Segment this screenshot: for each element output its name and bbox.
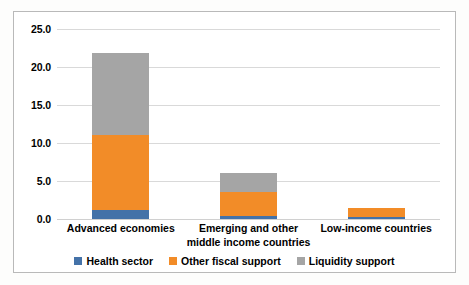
x-axis-label-3: Low-income countries [312, 222, 440, 236]
chart-frame: 0.05.010.015.020.025.0 Advanced economie… [13, 11, 456, 273]
bar-group[interactable] [92, 29, 149, 219]
legend-swatch-icon [297, 257, 305, 265]
legend-label: Other fiscal support [181, 255, 281, 267]
legend-item[interactable]: Health sector [74, 255, 153, 267]
y-axis-tick-label: 10.0 [31, 137, 51, 149]
bar-stack[interactable] [348, 208, 405, 219]
chart-legend: Health sectorOther fiscal supportLiquidi… [14, 255, 455, 267]
legend-item[interactable]: Other fiscal support [169, 255, 281, 267]
x-axis-label-1: Advanced economies [58, 222, 183, 236]
legend-item[interactable]: Liquidity support [297, 255, 395, 267]
bar-segment[interactable] [348, 208, 405, 218]
legend-label: Liquidity support [309, 255, 395, 267]
bar-segment[interactable] [92, 53, 149, 135]
bar-segment[interactable] [92, 210, 149, 219]
y-axis-tick-label: 25.0 [31, 23, 51, 35]
bar-group[interactable] [348, 29, 405, 219]
y-axis-tick-label: 20.0 [31, 61, 51, 73]
legend-label: Health sector [86, 255, 153, 267]
legend-swatch-icon [74, 257, 82, 265]
legend-swatch-icon [169, 257, 177, 265]
y-axis-tick-label: 15.0 [31, 99, 51, 111]
bar-segment[interactable] [92, 135, 149, 209]
bar-group[interactable] [220, 29, 277, 219]
y-axis-tick-label: 5.0 [37, 175, 51, 187]
bar-segment[interactable] [348, 217, 405, 219]
bar-series-container [57, 29, 440, 219]
bar-segment[interactable] [220, 192, 277, 216]
plot-area: 0.05.010.015.020.025.0 [57, 29, 440, 219]
gridline-0.0 [57, 219, 440, 220]
chart-page: 0.05.010.015.020.025.0 Advanced economie… [0, 0, 469, 285]
y-axis-tick-label: 0.0 [37, 213, 51, 225]
bar-segment[interactable] [220, 216, 277, 219]
bar-stack[interactable] [220, 173, 277, 219]
x-axis-category-labels: Advanced economiesEmerging and other mid… [57, 222, 440, 258]
x-axis-label-2: Emerging and other middle income countri… [185, 222, 313, 249]
bar-segment[interactable] [220, 173, 277, 192]
bar-stack[interactable] [92, 53, 149, 219]
